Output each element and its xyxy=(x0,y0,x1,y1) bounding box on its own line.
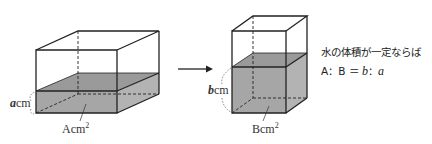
area-label-b: Bcm2 xyxy=(252,121,279,136)
box-after: bcm Bcm2 xyxy=(208,16,307,136)
box-before: acm Acm2 xyxy=(10,31,159,136)
ratio-prefix: A：B ＝ xyxy=(321,65,362,77)
height-label-b: bcm xyxy=(208,83,229,97)
ratio-sep: ： xyxy=(368,65,378,77)
area-label-a: Acm2 xyxy=(62,121,89,136)
note-line-1: 水の体積が一定ならば xyxy=(321,44,421,59)
note-line-2: A：B ＝ b：a xyxy=(321,63,384,79)
right-arrow-icon xyxy=(178,66,213,73)
height-label-a: acm xyxy=(10,96,31,110)
ratio-a: a xyxy=(378,64,384,78)
water-front-face xyxy=(232,67,286,113)
